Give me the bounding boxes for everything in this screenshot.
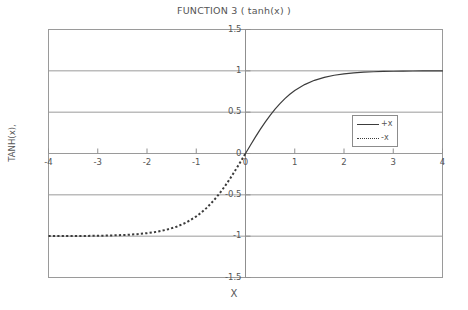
x-axis-label: X — [0, 288, 468, 299]
y-tick-label: 1.5 — [208, 24, 242, 34]
y-tick-label: -0.5 — [208, 189, 242, 199]
x-tick-label: -2 — [132, 157, 162, 167]
chart-title: FUNCTION 3 ( tanh(x) ) — [0, 5, 468, 16]
legend-entry-1: -x — [353, 132, 399, 146]
y-tick-label: -1.5 — [208, 272, 242, 282]
x-tick-label: -1 — [181, 157, 211, 167]
legend-entry-0: +x — [353, 118, 399, 132]
x-tick-label: 3 — [378, 157, 408, 167]
x-tick-label: 4 — [428, 157, 458, 167]
y-axis-label: TANH(x), — [7, 113, 17, 173]
legend-line-icon-solid — [357, 124, 379, 125]
x-tick-label: 1 — [280, 157, 310, 167]
x-tick-label: -4 — [34, 157, 64, 167]
y-tick-label: 1 — [208, 65, 242, 75]
legend[interactable]: +x -x — [352, 115, 398, 147]
legend-label-0: +x — [381, 119, 392, 128]
y-tick-label: 0.5 — [208, 106, 242, 116]
legend-line-icon-dotted — [357, 138, 379, 139]
x-tick-label: 2 — [329, 157, 359, 167]
y-tick-label: -1 — [208, 230, 242, 240]
x-tick-label: 0 — [231, 157, 261, 167]
figure: FUNCTION 3 ( tanh(x) ) TANH(x), X 1.510.… — [0, 0, 468, 310]
x-tick-label: -3 — [83, 157, 113, 167]
legend-label-1: -x — [381, 133, 389, 142]
